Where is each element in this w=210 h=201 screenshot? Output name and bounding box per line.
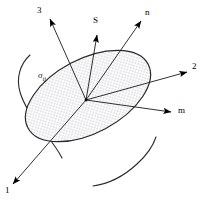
vector-label-stress-S: S	[93, 16, 98, 25]
vector-label-axis-1: 1	[5, 186, 10, 195]
vector-label-normal-n: n	[145, 8, 150, 17]
body-outline-bottom	[93, 137, 156, 186]
stress-vector-figure: σij 3Sn2m1	[0, 0, 210, 201]
vector-label-tangent-m: m	[178, 106, 185, 115]
stress-tensor-label: σij	[38, 71, 46, 82]
vector-label-axis-3: 3	[37, 6, 42, 15]
figure-canvas	[0, 0, 210, 201]
vector-label-axis-2: 2	[192, 62, 197, 71]
oblique-cut-plane	[11, 31, 166, 160]
vector-origin-point	[85, 99, 88, 102]
cut-plane-ellipse	[11, 31, 166, 160]
stress-tensor-subscript: ij	[42, 75, 46, 82]
